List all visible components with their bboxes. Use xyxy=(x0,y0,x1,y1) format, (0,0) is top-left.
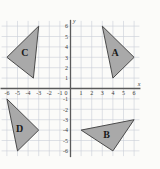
tick-label-y: 4 xyxy=(65,44,68,50)
coordinate-plane-figure: -6-5-4-3-2-10123456654321-1-2-3-4-5-6 AB… xyxy=(0,0,160,169)
coordinate-plane-svg: -6-5-4-3-2-10123456654321-1-2-3-4-5-6 AB… xyxy=(0,0,160,169)
tick-label-x: -6 xyxy=(4,90,9,96)
triangle-label-b: B xyxy=(103,129,110,140)
y-axis-label: y xyxy=(72,18,76,24)
tick-label-y: 6 xyxy=(65,23,68,29)
tick-label-x: -4 xyxy=(26,90,31,96)
tick-label-x: -1 xyxy=(57,90,62,96)
tick-label-x: 5 xyxy=(122,90,125,96)
tick-label-y: 2 xyxy=(65,65,68,71)
tick-label-y: -3 xyxy=(63,117,68,123)
x-axis-label: x xyxy=(137,81,141,87)
tick-label-y: -6 xyxy=(63,148,68,154)
tick-label-x: 2 xyxy=(90,90,93,96)
tick-label-x: -5 xyxy=(15,90,20,96)
tick-label-x: -2 xyxy=(47,90,52,96)
tick-label-y: 3 xyxy=(65,55,68,61)
tick-label-y: -1 xyxy=(63,96,68,102)
tick-label-y: 1 xyxy=(65,75,68,81)
tick-label-x: 6 xyxy=(133,90,136,96)
tick-label-y: -2 xyxy=(63,107,68,113)
tick-label-origin: 0 xyxy=(65,90,68,96)
tick-label-x: 1 xyxy=(80,90,83,96)
triangle-label-c: C xyxy=(21,47,28,58)
tick-label-x: 3 xyxy=(101,90,104,96)
tick-label-y: 5 xyxy=(65,34,68,40)
tick-label-y: -5 xyxy=(63,138,68,144)
tick-label-y: -4 xyxy=(63,127,68,133)
tick-label-x: 4 xyxy=(111,90,114,96)
triangle-label-a: A xyxy=(111,47,119,58)
tick-label-x: -3 xyxy=(36,90,41,96)
triangle-label-d: D xyxy=(16,123,23,134)
